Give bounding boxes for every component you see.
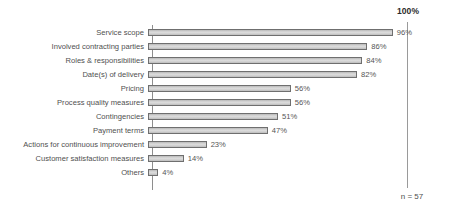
- bar-track: 86%: [148, 39, 451, 53]
- bar-track: 14%: [148, 151, 451, 165]
- bar-segment: [148, 43, 367, 50]
- bar-value-label: 56%: [295, 84, 310, 93]
- bar-value-label: 23%: [211, 140, 226, 149]
- bar-segment: [148, 71, 357, 78]
- bar-row: Customer satisfaction measures14%: [0, 151, 451, 165]
- bar-category-label: Contingencies: [0, 112, 148, 121]
- bar-category-label: Others: [0, 168, 148, 177]
- bar-category-label: Roles & responsibilities: [0, 56, 148, 65]
- bar-category-label: Payment terms: [0, 126, 148, 135]
- bar-row: Payment terms47%: [0, 123, 451, 137]
- bar-category-label: Service scope: [0, 28, 148, 37]
- bar-rows-container: Service scope96%Involved contracting par…: [0, 25, 451, 179]
- bar-track: 84%: [148, 53, 451, 67]
- bar-track: 51%: [148, 109, 451, 123]
- bar-track: 56%: [148, 81, 451, 95]
- bar-value-label: 56%: [295, 98, 310, 107]
- bar-row: Date(s) of delivery82%: [0, 67, 451, 81]
- bar-segment: [148, 85, 291, 92]
- reference-line-label: 100%: [384, 6, 432, 16]
- bar-value-label: 14%: [188, 154, 203, 163]
- bar-value-label: 84%: [366, 56, 381, 65]
- bar-segment: [148, 29, 393, 36]
- bar-segment: [148, 141, 207, 148]
- sample-size-note: n = 57: [380, 192, 444, 201]
- bar-track: 23%: [148, 137, 451, 151]
- bar-row: Process quality measures56%: [0, 95, 451, 109]
- bar-category-label: Involved contracting parties: [0, 42, 148, 51]
- bar-row: Pricing56%: [0, 81, 451, 95]
- bar-category-label: Customer satisfaction measures: [0, 154, 148, 163]
- bar-track: 4%: [148, 165, 451, 179]
- bar-track: 56%: [148, 95, 451, 109]
- bar-row: Actions for continuous improvement23%: [0, 137, 451, 151]
- bar-value-label: 96%: [397, 28, 412, 37]
- bar-row: Contingencies51%: [0, 109, 451, 123]
- bar-value-label: 86%: [371, 42, 386, 51]
- bar-row: Involved contracting parties86%: [0, 39, 451, 53]
- bar-row: Service scope96%: [0, 25, 451, 39]
- bar-value-label: 82%: [361, 70, 376, 79]
- bar-track: 82%: [148, 67, 451, 81]
- bar-category-label: Process quality measures: [0, 98, 148, 107]
- bar-value-label: 4%: [162, 168, 173, 177]
- bar-track: 96%: [148, 25, 451, 39]
- bar-value-label: 47%: [272, 126, 287, 135]
- bar-chart: 100% Service scope96%Involved contractin…: [0, 0, 451, 212]
- bar-segment: [148, 57, 362, 64]
- bar-segment: [148, 113, 278, 120]
- bar-category-label: Actions for continuous improvement: [0, 140, 148, 149]
- bar-value-label: 51%: [282, 112, 297, 121]
- bar-row: Others4%: [0, 165, 451, 179]
- bar-segment: [148, 99, 291, 106]
- bar-category-label: Date(s) of delivery: [0, 70, 148, 79]
- bar-row: Roles & responsibilities84%: [0, 53, 451, 67]
- bar-segment: [148, 169, 158, 176]
- bar-segment: [148, 127, 268, 134]
- bar-track: 47%: [148, 123, 451, 137]
- bar-segment: [148, 155, 184, 162]
- bar-category-label: Pricing: [0, 84, 148, 93]
